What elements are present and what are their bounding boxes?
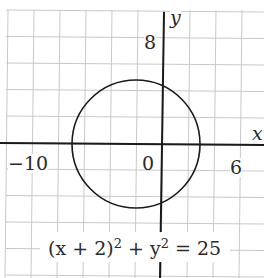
- equation-part2: + y: [122, 237, 161, 259]
- equation-exp1: 2: [114, 236, 122, 251]
- graph: y 8 x −10 0 6 (x + 2)2 + y2 = 25: [0, 0, 264, 278]
- equation-part1: (x + 2): [48, 237, 114, 259]
- equation-part3: = 25: [169, 237, 221, 259]
- equation-label: (x + 2)2 + y2 = 25: [48, 237, 221, 258]
- y-axis-label: y: [170, 8, 181, 27]
- equation-exp2: 2: [161, 236, 169, 251]
- tick-label-0: 0: [142, 154, 154, 173]
- tick-label-6: 6: [230, 158, 242, 177]
- x-axis: [0, 143, 264, 145]
- tick-label-neg10: −10: [8, 154, 48, 173]
- tick-label-8: 8: [144, 33, 156, 52]
- x-axis-label: x: [252, 124, 263, 143]
